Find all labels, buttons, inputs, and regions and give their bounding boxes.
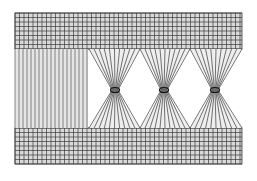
top-grid-band: [15, 13, 242, 49]
left-vertical-panel: [15, 49, 88, 128]
mesh-diagram: [0, 0, 257, 181]
bowtie-fans: [89, 49, 242, 128]
bottom-grid-band: [15, 128, 242, 164]
